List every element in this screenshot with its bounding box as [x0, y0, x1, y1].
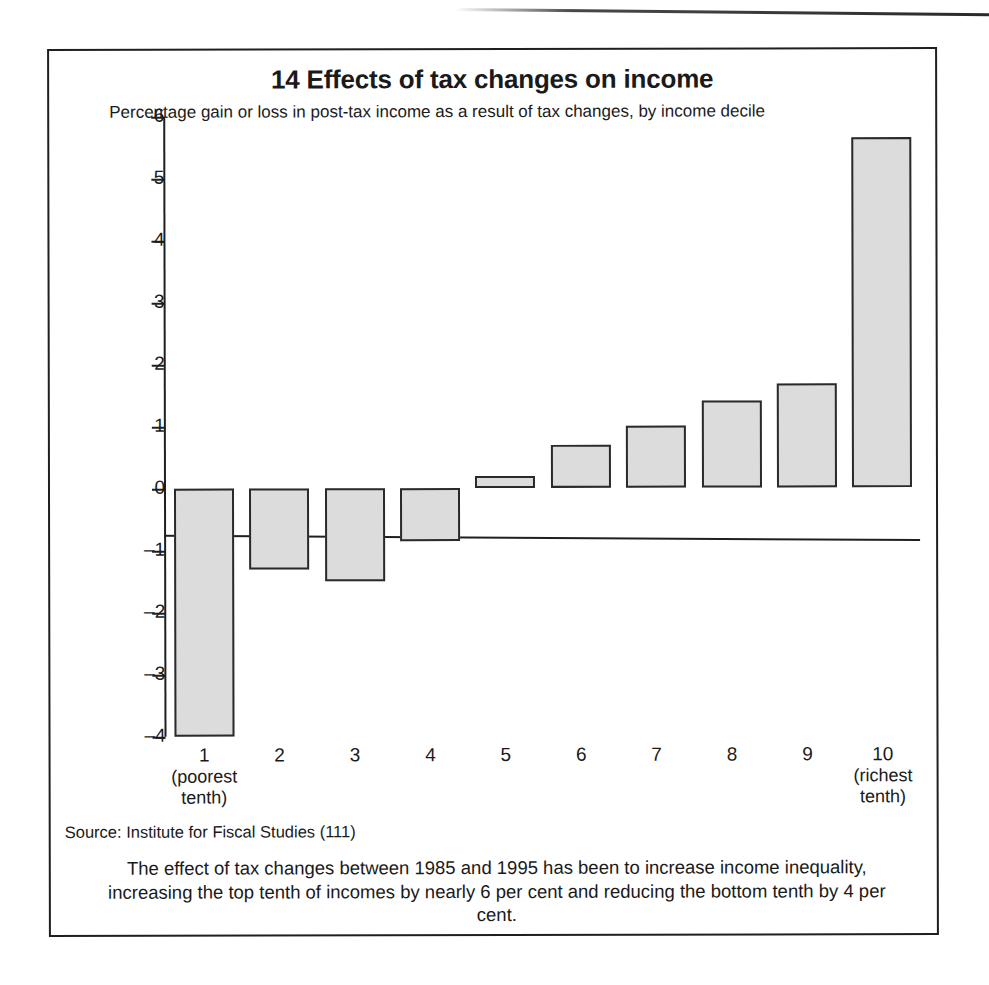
bar — [249, 488, 309, 569]
bar — [626, 426, 686, 488]
x-axis-label: 7 — [651, 744, 662, 766]
bar — [324, 488, 384, 581]
x-axis-label: 5 — [501, 744, 512, 766]
scan-edge-artifact — [455, 8, 989, 16]
x-axis-label: 10(richesttenth) — [853, 743, 912, 807]
x-axis-label: 6 — [576, 744, 587, 766]
figure-frame: 14 Effects of tax changes on income Perc… — [47, 47, 939, 937]
plot-area: 6543210–1–2–3–4 1(pooresttenth)234567891… — [111, 115, 922, 757]
y-axis-tick-label: –4 — [131, 725, 165, 747]
bar — [174, 489, 235, 737]
figure-caption: The effect of tax changes between 1985 a… — [97, 855, 897, 928]
y-axis-tick-label: 6 — [130, 105, 164, 127]
page-title: 14 Effects of tax changes on income — [49, 63, 935, 96]
bar — [701, 401, 761, 488]
x-axis-label: 4 — [425, 744, 436, 766]
bar-series — [165, 115, 920, 737]
bar — [777, 383, 837, 487]
x-axis-label: 3 — [350, 744, 361, 766]
y-axis-tick-label: 2 — [131, 353, 165, 375]
y-axis-tick-label: –3 — [131, 663, 165, 685]
y-axis-tick-label: –1 — [131, 539, 165, 561]
x-axis-label: 2 — [274, 744, 285, 766]
bar — [852, 137, 913, 487]
y-axis-tick-label: 1 — [131, 415, 165, 437]
bar — [400, 488, 460, 541]
x-axis-label: 8 — [727, 743, 738, 765]
source-note: Source: Institute for Fiscal Studies (11… — [65, 822, 356, 842]
y-axis-tick-label: 4 — [130, 229, 164, 251]
y-axis-tick-label: 3 — [131, 291, 165, 313]
bar — [475, 476, 535, 489]
y-axis-tick-label: –2 — [131, 601, 165, 623]
bar — [551, 444, 611, 488]
y-axis-tick-label: 5 — [130, 167, 164, 189]
x-axis-label: 1(pooresttenth) — [171, 745, 237, 809]
y-axis-tick-label: 0 — [131, 477, 165, 499]
x-axis-label: 9 — [802, 743, 813, 765]
